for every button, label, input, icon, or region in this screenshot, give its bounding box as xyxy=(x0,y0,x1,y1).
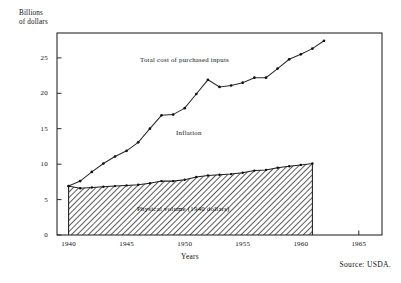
x-tick-label-1945: 1945 xyxy=(112,240,142,248)
source-note: Source: USDA. xyxy=(339,260,391,269)
y-tick-label-0: 0 xyxy=(24,231,48,239)
annotation-total-cost: Total cost of purchased inputs xyxy=(140,56,229,63)
physical-volume-area xyxy=(69,164,313,236)
annotation-physical-volume: Physical volume (1940 dollars) xyxy=(137,205,230,212)
x-tick-label-1940: 1940 xyxy=(54,240,84,248)
y-tick-label-20: 20 xyxy=(24,89,48,97)
y-tick-label-15: 15 xyxy=(24,125,48,133)
y-tick-label-5: 5 xyxy=(24,196,48,204)
x-axis-title: Years xyxy=(170,252,210,261)
y-tick-label-10: 10 xyxy=(24,160,48,168)
x-tick-label-1955: 1955 xyxy=(228,240,258,248)
y-tick-label-25: 25 xyxy=(24,54,48,62)
chart-figure: · · · ·· · ·· · · ·· Billions of dollars xyxy=(0,0,401,283)
annotation-inflation: Inflation xyxy=(176,129,202,136)
x-tick-label-1960: 1960 xyxy=(286,240,316,248)
x-tick-label-1950: 1950 xyxy=(170,240,200,248)
x-tick-label-1965: 1965 xyxy=(344,240,374,248)
y-axis-ticks xyxy=(57,58,62,235)
